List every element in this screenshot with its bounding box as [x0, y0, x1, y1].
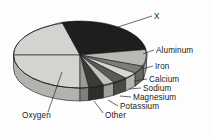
label-calcium: Calcium — [149, 75, 179, 84]
label-potassium: Potassium — [120, 102, 159, 111]
pie-top-face — [14, 21, 148, 88]
pie-chart-svg: X Aluminum Iron Calcium Sodium Magnesium… — [0, 0, 212, 138]
label-iron: Iron — [155, 62, 170, 71]
label-x: X — [154, 12, 160, 21]
label-sodium: Sodium — [143, 84, 171, 93]
leader-potassium — [108, 100, 118, 106]
leader-x — [118, 16, 152, 27]
wall-other — [80, 87, 89, 101]
leader-other — [94, 101, 103, 113]
label-other: Other — [105, 111, 126, 120]
label-oxygen: Oxygen — [22, 111, 51, 120]
label-magnesium: Magnesium — [133, 93, 176, 102]
label-aluminum: Aluminum — [156, 46, 193, 55]
leader-magnesium — [120, 96, 131, 97]
pie-chart-figure: X Aluminum Iron Calcium Sodium Magnesium… — [0, 0, 212, 138]
